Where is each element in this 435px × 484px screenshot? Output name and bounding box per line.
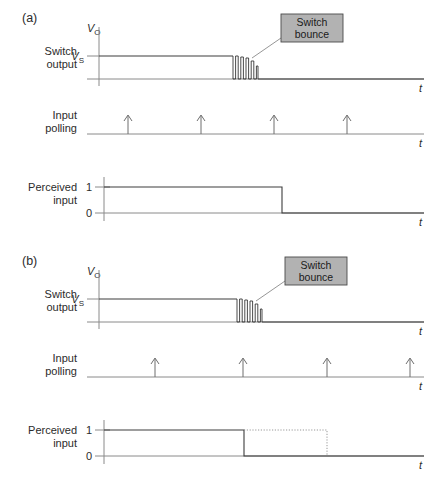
panel-b-perceived-input-label-line2: input [53, 437, 77, 449]
panel-b: (b) Switch output VO VS Switch bounce t … [22, 254, 424, 471]
panel-b-poll-arrow [406, 358, 414, 377]
panel-a-perceived-input-label-line1: Perceived [28, 181, 77, 193]
panel-a-input-polling-row: Input polling t [45, 109, 424, 149]
panel-a-perceived-tick-low: 0 [86, 207, 92, 219]
panel-a-input-polling-t-label: t [419, 137, 423, 149]
panel-a-switch-output-t-label: t [419, 82, 423, 94]
panel-b-input-polling-label-line2: polling [45, 365, 77, 377]
panel-b-switch-bounce-callout: Switch bounce [285, 257, 347, 285]
panel-b-callout-line1: Switch [301, 259, 332, 271]
panel-b-poll-arrow [323, 358, 331, 377]
panel-b-poll-arrow [151, 358, 159, 377]
panel-a-perceived-input-waveform [104, 187, 424, 213]
panel-a-switch-output-row: Switch output VO VS Switch bounce [45, 14, 424, 94]
panel-b-perceived-input-label-line1: Perceived [28, 424, 77, 436]
panel-b-input-polling-row: Input polling t [45, 352, 424, 392]
timing-diagram-canvas: (a) Switch output VO VS Switch [0, 0, 435, 484]
panel-a-callout-line2: bounce [295, 28, 330, 40]
panel-b-callout-leader [256, 281, 285, 301]
panel-b-switch-output-row: Switch output VO VS Switch bounce t [45, 257, 424, 337]
panel-a-input-polling-label-line2: polling [45, 122, 77, 134]
panel-a-perceived-input-row: Perceived input 1 0 t [28, 177, 424, 228]
panel-b-perceived-input-waveform [104, 430, 424, 456]
figure-switch-bounce: (a) Switch output VO VS Switch [0, 0, 435, 484]
panel-b-switch-bounce-waveform [237, 299, 262, 322]
panel-a-perceived-t-label: t [419, 216, 423, 228]
panel-b-perceived-t-label: t [419, 459, 423, 471]
panel-b-switch-output-t-label: t [419, 325, 423, 337]
panel-a-perceived-input-label-line2: input [53, 194, 77, 206]
panel-a-poll-arrow [270, 115, 278, 134]
panel-a-poll-arrow [197, 115, 205, 134]
panel-b-input-polling-label-line1: Input [53, 352, 77, 364]
panel-a-switch-bounce-callout: Switch bounce [281, 14, 343, 42]
panel-a-poll-arrow [124, 115, 132, 134]
panel-a-label: (a) [22, 11, 37, 25]
panel-b-label: (b) [22, 254, 37, 268]
panel-a-callout-line1: Switch [297, 16, 328, 28]
panel-b-perceived-input-ghost-waveform [244, 430, 327, 456]
panel-b-perceived-input-row: Perceived input 1 0 t [28, 420, 424, 471]
panel-b-input-polling-t-label: t [419, 380, 423, 392]
panel-b-poll-arrow [239, 358, 247, 377]
panel-a-switch-bounce-waveform [233, 56, 258, 79]
panel-b-callout-line2: bounce [299, 271, 334, 283]
panel-a: (a) Switch output VO VS Switch [22, 11, 424, 228]
panel-b-perceived-tick-low: 0 [86, 450, 92, 462]
panel-a-callout-leader [252, 38, 281, 58]
panel-a-poll-arrow [343, 115, 351, 134]
panel-a-perceived-tick-high: 1 [86, 181, 92, 193]
panel-a-input-polling-label-line1: Input [53, 109, 77, 121]
panel-b-perceived-tick-high: 1 [86, 424, 92, 436]
